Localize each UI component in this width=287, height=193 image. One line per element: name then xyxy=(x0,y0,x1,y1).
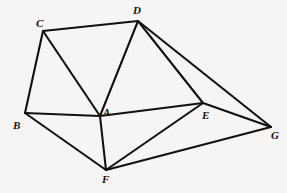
graph-diagram: ABCDEFG xyxy=(0,0,287,193)
vertex-label-d: D xyxy=(133,5,141,16)
vertex-label-f: F xyxy=(102,174,109,185)
graph-edge-ca xyxy=(43,31,100,116)
graph-edge-cd xyxy=(43,21,138,31)
graph-edge-ba xyxy=(25,113,100,116)
graph-edge-bf xyxy=(25,113,106,170)
vertex-label-a: A xyxy=(103,107,110,118)
graph-edge-af xyxy=(100,116,106,170)
graph-edge-de xyxy=(138,21,203,103)
edge-layer xyxy=(25,21,271,170)
vertex-label-b: B xyxy=(13,120,20,131)
graph-edge-eg xyxy=(203,103,271,127)
graph-edge-da xyxy=(100,21,138,116)
vertex-label-c: C xyxy=(36,18,43,29)
graph-edge-fg xyxy=(106,127,271,170)
graph-edge-cb xyxy=(25,31,43,113)
vertex-label-g: G xyxy=(271,130,279,141)
vertex-label-e: E xyxy=(202,110,209,121)
